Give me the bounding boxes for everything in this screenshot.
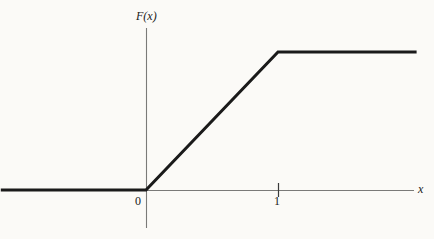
x-tick-label-zero: 0 bbox=[135, 195, 141, 207]
figure-canvas: F(x) x 0 1 bbox=[0, 0, 434, 239]
cdf-curve bbox=[1, 52, 417, 190]
x-axis-label: x bbox=[418, 183, 423, 195]
x-tick-label-one: 1 bbox=[274, 195, 280, 207]
y-axis-label: F(x) bbox=[136, 10, 157, 22]
plot-area bbox=[0, 0, 434, 239]
